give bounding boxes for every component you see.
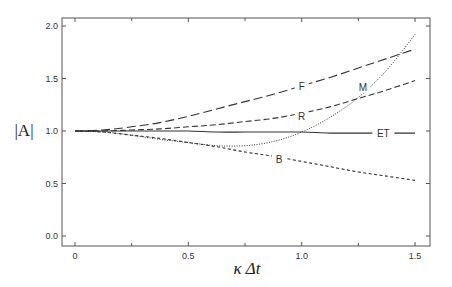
curve-label-et: ET: [377, 128, 390, 139]
x-tick-label: 1.0: [295, 251, 308, 261]
x-tick-label: 0: [72, 251, 77, 261]
curve-label-r: R: [298, 111, 305, 122]
y-tick-label: 2.0: [45, 21, 58, 31]
curve-b: [75, 131, 415, 180]
y-axis-title: |A|: [14, 121, 33, 140]
curve-label-f: F: [299, 81, 305, 92]
y-tick-label: 0.5: [45, 179, 58, 189]
x-axis: 00.51.01.5: [72, 18, 421, 261]
curve-label-m: M: [359, 82, 367, 93]
y-tick-label: 1.0: [45, 126, 58, 136]
y-tick-label: 0.0: [45, 231, 58, 241]
curve-labels: FMRETB: [272, 80, 394, 166]
x-axis-title: κ Δt: [234, 259, 262, 278]
chart: 0.00.51.01.52.0 00.51.01.5 FMRETB |A| κ …: [0, 0, 452, 287]
x-tick-label: 0.5: [182, 251, 195, 261]
x-tick-label: 1.5: [409, 251, 422, 261]
y-tick-label: 1.5: [45, 74, 58, 84]
curves: [75, 34, 415, 180]
curve-label-b: B: [276, 154, 283, 165]
curve-et: [75, 131, 415, 133]
